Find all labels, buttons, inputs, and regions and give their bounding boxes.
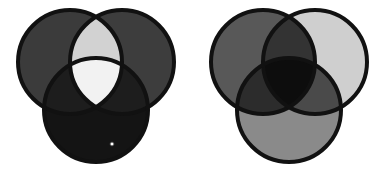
reference-dot-marker — [110, 142, 114, 146]
venn-diagram-figure — [0, 0, 386, 179]
